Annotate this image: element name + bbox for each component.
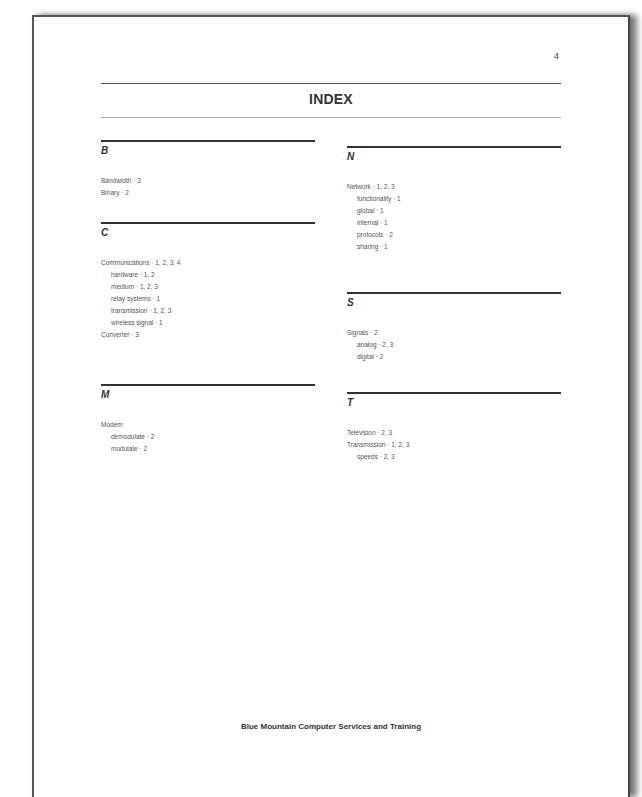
index-entry: Converter · 3 — [101, 329, 315, 341]
index-subentry: protocols · 2 — [347, 229, 561, 241]
index-subentry: medium · 1, 2, 3 — [101, 281, 315, 293]
index-entry: Signals · 2 — [347, 327, 561, 339]
document-page: 4 INDEX B Bandwidth · 3 Binary · 2 C Com… — [32, 15, 630, 797]
section-rule — [347, 392, 561, 394]
index-subentry: wireless signal · 1 — [101, 317, 315, 329]
index-section-b: B Bandwidth · 3 Binary · 2 — [101, 140, 315, 199]
section-entries: Signals · 2 analog · 2, 3 digital · 2 — [347, 327, 561, 363]
section-letter: T — [347, 396, 561, 410]
section-rule — [101, 222, 315, 224]
index-section-n: N Network · 1, 2, 3 functionality · 1 gl… — [347, 146, 561, 253]
page-number: 4 — [554, 51, 559, 61]
index-subentry: functionality · 1 — [347, 193, 561, 205]
index-subentry: transmission · 1, 2, 3 — [101, 305, 315, 317]
index-subentry: global · 1 — [347, 205, 561, 217]
section-letter: S — [347, 296, 561, 310]
index-subentry: digital · 2 — [347, 351, 561, 363]
page-title: INDEX — [101, 91, 561, 107]
index-entry: Network · 1, 2, 3 — [347, 181, 561, 193]
section-entries: Communications · 1, 2, 3, 4 hardware · 1… — [101, 257, 315, 341]
index-section-m: M Modem demodulate · 2 modulate · 2 — [101, 384, 315, 455]
index-section-s: S Signals · 2 analog · 2, 3 digital · 2 — [347, 292, 561, 363]
index-subentry: speeds · 2, 3 — [347, 451, 561, 463]
index-subentry: sharing · 1 — [347, 241, 561, 253]
section-letter: M — [101, 388, 315, 402]
section-entries: Bandwidth · 3 Binary · 2 — [101, 175, 315, 199]
index-entry: Television · 2, 3 — [347, 427, 561, 439]
index-entry: Bandwidth · 3 — [101, 175, 315, 187]
index-subentry: relay systems · 1 — [101, 293, 315, 305]
index-section-t: T Television · 2, 3 Transmission · 1, 2,… — [347, 392, 561, 463]
index-entry: Transmission · 1, 2, 3 — [347, 439, 561, 451]
section-entries: Network · 1, 2, 3 functionality · 1 glob… — [347, 181, 561, 253]
title-bottom-rule — [101, 117, 561, 118]
title-top-rule — [101, 83, 561, 84]
index-section-c: C Communications · 1, 2, 3, 4 hardware ·… — [101, 222, 315, 341]
section-letter: B — [101, 144, 315, 158]
section-entries: Modem demodulate · 2 modulate · 2 — [101, 419, 315, 455]
index-subentry: demodulate · 2 — [101, 431, 315, 443]
index-subentry: analog · 2, 3 — [347, 339, 561, 351]
section-rule — [347, 146, 561, 148]
index-subentry: internal · 1 — [347, 217, 561, 229]
section-rule — [347, 292, 561, 294]
index-subentry: modulate · 2 — [101, 443, 315, 455]
index-entry: Binary · 2 — [101, 187, 315, 199]
index-entry: Modem — [101, 419, 315, 431]
section-letter: C — [101, 226, 315, 240]
section-letter: N — [347, 150, 561, 164]
page-footer: Blue Mountain Computer Services and Trai… — [34, 722, 628, 731]
section-rule — [101, 140, 315, 142]
section-entries: Television · 2, 3 Transmission · 1, 2, 3… — [347, 427, 561, 463]
index-entry: Communications · 1, 2, 3, 4 — [101, 257, 315, 269]
section-rule — [101, 384, 315, 386]
index-subentry: hardware · 1, 2 — [101, 269, 315, 281]
